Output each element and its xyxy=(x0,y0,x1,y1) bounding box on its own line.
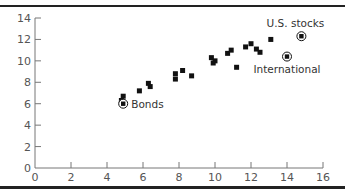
y-tick-label: 6 xyxy=(24,98,31,111)
x-tick-label: 8 xyxy=(176,171,183,184)
square-marker xyxy=(121,94,126,99)
point-label: U.S. stocks xyxy=(267,17,325,29)
point-label: International xyxy=(253,63,320,75)
square-marker xyxy=(229,48,234,53)
x-tick-label: 2 xyxy=(68,171,75,184)
square-marker xyxy=(137,88,142,93)
highlighted-points: BondsInternationalU.S. stocks xyxy=(119,17,325,110)
square-marker xyxy=(121,102,125,106)
x-tick-label: 6 xyxy=(140,171,147,184)
x-tick-label: 16 xyxy=(316,171,330,184)
y-tick-label: 4 xyxy=(24,119,31,132)
square-marker xyxy=(268,37,273,42)
square-marker xyxy=(173,71,178,76)
axes: 024681012141602468101214 xyxy=(17,12,330,184)
y-tick-label: 2 xyxy=(24,141,31,154)
scatter-chart: 024681012141602468101214 BondsInternatio… xyxy=(0,0,345,193)
y-tick-label: 0 xyxy=(24,162,31,175)
data-points xyxy=(119,37,273,103)
x-tick-label: 10 xyxy=(208,171,222,184)
square-marker xyxy=(299,34,303,38)
square-marker xyxy=(258,50,263,55)
square-marker xyxy=(234,65,239,70)
square-marker xyxy=(189,73,194,78)
y-tick-label: 12 xyxy=(17,33,31,46)
x-tick-label: 12 xyxy=(244,171,258,184)
y-tick-label: 8 xyxy=(24,76,31,89)
point-label: Bonds xyxy=(131,98,163,110)
x-tick-label: 0 xyxy=(32,171,39,184)
square-marker xyxy=(148,84,153,89)
square-marker xyxy=(180,68,185,73)
square-marker xyxy=(285,54,289,58)
highlight-bonds: Bonds xyxy=(119,98,164,110)
y-tick-label: 10 xyxy=(17,55,31,68)
x-tick-label: 4 xyxy=(104,171,111,184)
highlight-international: International xyxy=(253,52,320,74)
square-marker xyxy=(249,41,254,46)
square-marker xyxy=(173,77,178,82)
y-tick-label: 14 xyxy=(17,12,31,25)
x-tick-label: 14 xyxy=(280,171,294,184)
square-marker xyxy=(243,44,248,49)
highlight-u-s-stocks: U.S. stocks xyxy=(267,17,325,41)
square-marker xyxy=(211,61,216,66)
